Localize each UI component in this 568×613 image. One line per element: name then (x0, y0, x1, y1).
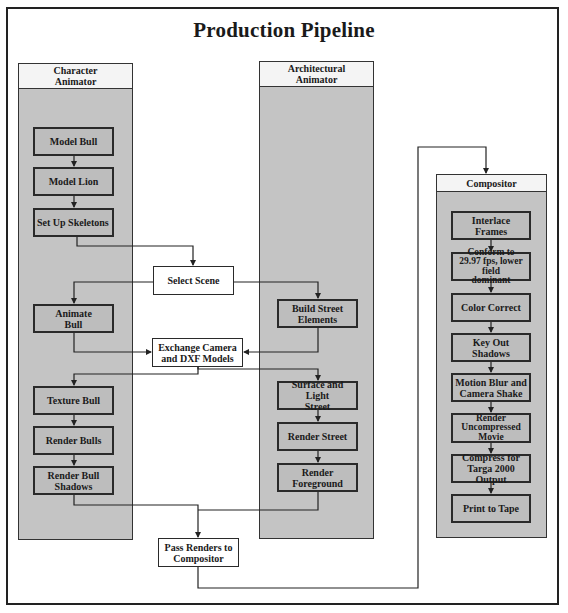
step-motion-blur-camera-shake: Motion Blur and Camera Shake (451, 373, 531, 402)
step-render-uncompressed-movie: Render Uncompressed Movie (451, 413, 531, 443)
step-pass-renders: Pass Renders to Compositor (158, 538, 239, 567)
step-exchange-camera-dxf: Exchange Camera and DXF Models (152, 338, 243, 367)
lane-header-architectural: Architectural Animator (260, 62, 373, 87)
step-animate-bull: Animate Bull (33, 304, 114, 333)
step-surface-light-street: Surface and Light Street (277, 381, 358, 410)
step-render-foreground: Render Foreground (277, 463, 358, 492)
lane-header-character: Character Animator (19, 64, 132, 89)
step-model-lion: Model Lion (33, 167, 114, 196)
step-texture-bull: Texture Bull (33, 386, 114, 415)
step-color-correct: Color Correct (451, 293, 531, 322)
step-print-to-tape: Print to Tape (451, 494, 531, 523)
step-conform-fps: Conform to 29.97 fps, lower field domina… (451, 252, 531, 281)
lane-header-compositor: Compositor (437, 175, 546, 192)
diagram-title: Production Pipeline (0, 18, 568, 43)
step-key-out-shadows: Key Out Shadows (451, 333, 531, 362)
step-build-street-elements: Build Street Elements (277, 299, 358, 328)
step-set-up-skeletons: Set Up Skeletons (33, 208, 114, 237)
step-render-street: Render Street (277, 422, 358, 451)
step-interlace-frames: Interlace Frames (451, 211, 531, 240)
step-render-bulls: Render Bulls (33, 426, 114, 455)
step-model-bull: Model Bull (33, 127, 114, 156)
step-select-scene: Select Scene (153, 266, 234, 295)
step-render-bull-shadows: Render Bull Shadows (33, 466, 114, 495)
step-compress-targa: Compress for Targa 2000 Output (451, 454, 531, 483)
